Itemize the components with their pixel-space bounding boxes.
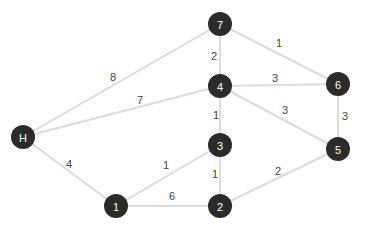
edge-weight-4-5: 3 [282, 104, 288, 116]
edge-2-5 [220, 149, 338, 206]
node-label: 3 [217, 140, 223, 152]
node-label: 7 [217, 19, 223, 31]
node-label: H [19, 132, 27, 144]
node-label: 4 [217, 81, 223, 93]
edge-weight-H-7: 8 [110, 71, 116, 83]
node-1: 1 [104, 194, 128, 218]
node-2: 2 [208, 194, 232, 218]
node-label: 1 [113, 201, 119, 213]
edge-H-4 [23, 86, 220, 137]
edge-weight-2-5: 2 [275, 165, 281, 177]
edge-weight-H-4: 7 [137, 94, 143, 106]
edge-weight-1-2: 6 [169, 190, 175, 202]
edge-weight-4-6: 3 [272, 72, 278, 84]
edge-7-6 [220, 24, 338, 84]
edge-H-7 [23, 24, 220, 137]
edge-weight-H-1: 4 [66, 158, 72, 170]
node-label: 5 [335, 144, 341, 156]
node-H: H [11, 125, 35, 149]
edge-weight-7-6: 1 [276, 37, 282, 49]
edge-weight-3-2: 1 [212, 168, 218, 180]
weighted-graph: 8742133131162 H1234567 [0, 0, 365, 227]
node-label: 2 [217, 201, 223, 213]
node-label: 6 [335, 79, 341, 91]
edge-weight-7-4: 2 [211, 50, 217, 62]
node-7: 7 [208, 12, 232, 36]
node-3: 3 [208, 133, 232, 157]
edge-weight-4-3: 1 [213, 109, 219, 121]
edge-weights-layer: 8742133131162 [66, 37, 348, 202]
edge-4-6 [220, 84, 338, 86]
edge-H-1 [23, 137, 116, 206]
edges-layer [23, 24, 338, 206]
node-6: 6 [326, 72, 350, 96]
edge-weight-6-5: 3 [342, 110, 348, 122]
node-5: 5 [326, 137, 350, 161]
edge-4-5 [220, 86, 338, 149]
edge-weight-3-1: 1 [163, 159, 169, 171]
node-4: 4 [208, 74, 232, 98]
